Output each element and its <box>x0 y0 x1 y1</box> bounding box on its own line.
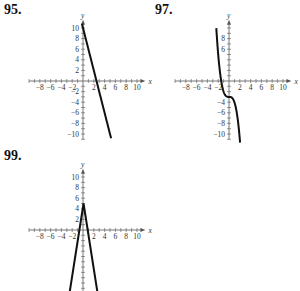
x-tick-label: −6 <box>47 232 55 241</box>
y-tick-label: 8 <box>75 183 79 192</box>
x-tick-label: −4 <box>57 232 65 241</box>
x-tick-label: 10 <box>279 83 287 92</box>
x-tick-label: 2 <box>92 83 96 92</box>
y-tick-label: −6 <box>71 108 79 117</box>
y-tick-label: 6 <box>75 194 79 203</box>
y-tick-label: −8 <box>217 119 225 128</box>
y-tick-label: 2 <box>75 215 79 224</box>
y-tick-label: 4 <box>75 204 79 213</box>
y-tick-label: 4 <box>75 55 79 64</box>
x-tick-label: −8 <box>36 232 44 241</box>
x-axis-arrow-icon <box>140 228 145 232</box>
y-tick-label: 8 <box>75 34 79 43</box>
x-axis-arrow-icon <box>140 79 145 83</box>
x-tick-label: −4 <box>57 83 65 92</box>
y-tick-label: 10 <box>72 173 80 182</box>
x-tick-label: 6 <box>260 83 264 92</box>
x-tick-label: 6 <box>114 83 118 92</box>
x-tick-label: 8 <box>124 232 128 241</box>
y-tick-label: −10 <box>67 130 79 139</box>
x-tick-label: −8 <box>182 83 190 92</box>
x-tick-label: 4 <box>103 232 107 241</box>
x-tick-label: 4 <box>249 83 253 92</box>
y-tick-label: 8 <box>221 34 225 43</box>
x-tick-label: 4 <box>103 83 107 92</box>
graph-99: xy−8−6−4−2246810108642 <box>29 160 152 291</box>
x-tick-label: −4 <box>203 83 211 92</box>
x-axis-label: x <box>147 226 152 235</box>
y-tick-label: −4 <box>217 98 225 107</box>
x-axis-label: x <box>293 77 298 86</box>
x-axis-label: x <box>147 77 152 86</box>
y-axis-label: y <box>226 11 231 20</box>
y-axis-arrow-icon <box>81 169 85 174</box>
x-tick-label: 10 <box>133 83 141 92</box>
y-tick-label: 2 <box>75 66 79 75</box>
x-tick-label: 8 <box>124 83 128 92</box>
y-tick-label: 10 <box>72 24 80 33</box>
y-tick-label: −2 <box>71 87 79 96</box>
graph-95: xy−8−6−4−2246810108642−2−4−6−8−10 <box>29 11 152 140</box>
y-axis-label: y <box>80 11 85 20</box>
x-tick-label: 10 <box>133 232 141 241</box>
x-tick-label: 6 <box>114 232 118 241</box>
x-tick-label: 2 <box>92 232 96 241</box>
graph-97: xy−8−6−4−224681086−4−6−8−10 <box>175 11 298 143</box>
x-tick-label: 2 <box>238 83 242 92</box>
y-tick-label: −4 <box>71 98 79 107</box>
y-tick-label: 6 <box>75 45 79 54</box>
x-tick-label: −2 <box>68 232 76 241</box>
graphs-canvas: xy−8−6−4−2246810108642−2−4−6−8−10xy−8−6−… <box>0 0 300 291</box>
y-tick-label: −6 <box>217 108 225 117</box>
y-axis-label: y <box>80 160 85 169</box>
y-tick-label: −10 <box>213 130 225 139</box>
y-tick-label: −8 <box>71 119 79 128</box>
x-tick-label: 8 <box>270 83 274 92</box>
y-axis-arrow-icon <box>227 20 231 25</box>
y-tick-label: 6 <box>221 45 225 54</box>
x-tick-label: −8 <box>36 83 44 92</box>
x-tick-label: −6 <box>193 83 201 92</box>
x-axis-arrow-icon <box>286 79 291 83</box>
x-tick-label: −6 <box>47 83 55 92</box>
